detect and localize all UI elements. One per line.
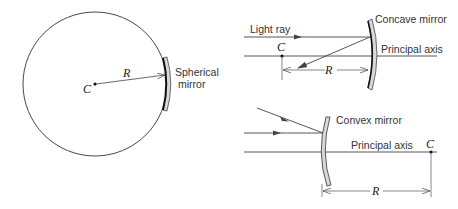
ray-arrowhead [273,131,281,136]
convex-mirror-label: Convex mirror [336,114,402,126]
mirror-label-line1: Spherical [175,66,219,78]
radius-label: R [122,66,131,80]
mirror-label-line2: mirror [178,78,206,90]
radius-label: R [324,63,333,77]
center-label: C [277,40,286,54]
reflected-ray [298,37,370,68]
concave-mirror-label: Concave mirror [375,13,447,25]
radius-label: R [371,184,380,198]
ray-arrowhead [294,35,302,40]
convex-mirror [321,117,331,186]
reflected-ray [257,108,323,133]
radius-arrow [96,75,165,84]
light-ray-label: Light ray [250,23,291,35]
principal-axis-label: Principal axis [351,139,413,151]
mirror-diagram: C R Spherical mirror R C Light ray Conca… [0,0,458,209]
convex-panel: R C Convex mirror Principal axis [244,108,437,198]
center-label: C [426,137,435,151]
principal-axis-label: Principal axis [381,43,443,55]
center-label: C [83,82,92,96]
concave-panel: R C Light ray Concave mirror Principal a… [244,13,447,90]
sphere-panel: C R Spherical mirror [23,12,219,156]
